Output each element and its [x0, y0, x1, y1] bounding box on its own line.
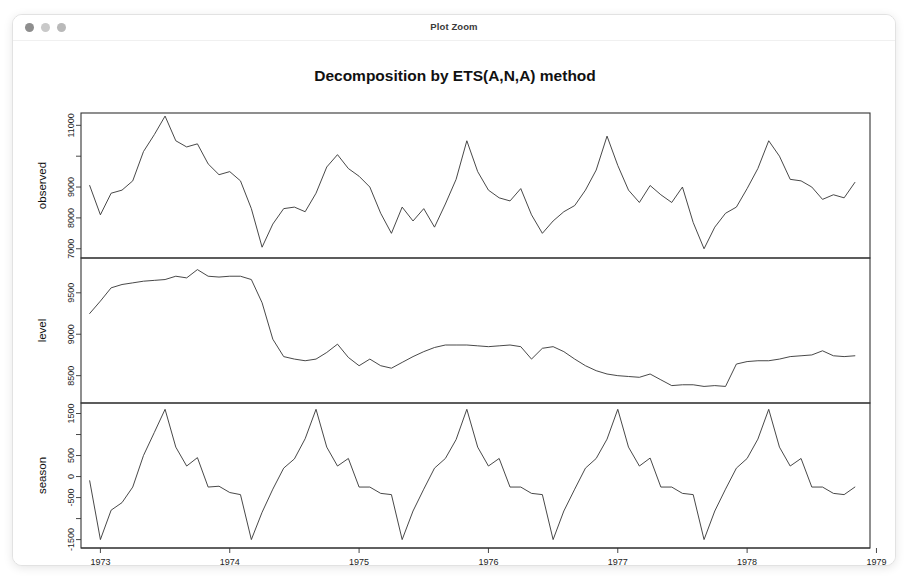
y-tick-label-level: 8500 — [66, 366, 76, 386]
panel-observed: 70008000900011000observed — [36, 113, 870, 259]
panel-frame-level — [81, 258, 870, 403]
panel-level: 850090009500level — [36, 258, 870, 403]
panel-frame-observed — [81, 113, 870, 258]
decomposition-plot-svg: 70008000900011000observed850090009500lev… — [13, 41, 896, 566]
panel-label-season: season — [36, 457, 48, 494]
x-tick-label: 1977 — [608, 557, 628, 566]
x-tick-label: 1974 — [220, 557, 240, 566]
panel-season: 15005000-500-1500season — [36, 403, 870, 551]
x-tick-label: 1973 — [90, 557, 110, 566]
series-line-observed — [90, 116, 855, 249]
window-title: Plot Zoom — [13, 21, 895, 32]
panel-label-observed: observed — [36, 162, 48, 209]
x-tick-label: 1976 — [478, 557, 498, 566]
x-tick-label: 1979 — [866, 557, 886, 566]
series-line-level — [90, 270, 855, 387]
y-tick-label-season: 0 — [66, 474, 76, 479]
window-titlebar: Plot Zoom — [13, 15, 895, 41]
plot-zoom-window: Plot Zoom Decomposition by ETS(A,N,A) me… — [12, 14, 896, 566]
y-tick-label-level: 9000 — [66, 324, 76, 344]
y-tick-label-observed: 11000 — [66, 113, 76, 137]
x-tick-label: 1978 — [737, 557, 757, 566]
y-tick-label-season: -500 — [66, 489, 76, 507]
y-tick-label-season: 1500 — [66, 403, 76, 423]
panel-label-level: level — [36, 319, 48, 343]
y-tick-label-season: -1500 — [66, 528, 76, 551]
x-axis: 1973197419751976197719781979Time — [81, 548, 886, 566]
y-tick-label-season: 500 — [66, 448, 76, 463]
y-tick-label-observed: 8000 — [66, 208, 76, 228]
y-tick-label-observed: 7000 — [66, 239, 76, 259]
y-tick-label-observed: 9000 — [66, 177, 76, 197]
series-line-season — [90, 409, 855, 539]
panel-frame-season — [81, 403, 870, 548]
y-tick-label-level: 9500 — [66, 283, 76, 303]
plot-canvas: Decomposition by ETS(A,N,A) method 70008… — [13, 41, 896, 566]
x-tick-label: 1975 — [349, 557, 369, 566]
